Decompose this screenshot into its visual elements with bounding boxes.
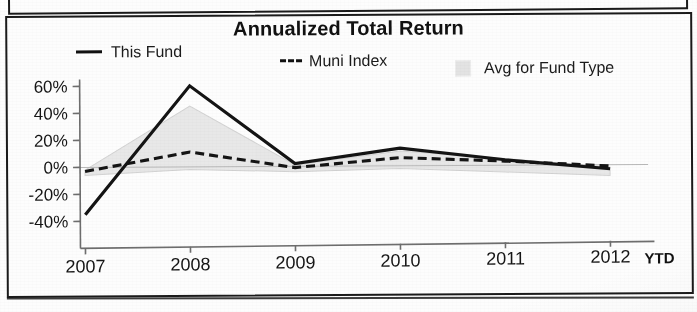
legend-item-muni-index: Muni Index <box>280 52 387 71</box>
x-axis-ytd-label: YTD <box>644 249 674 266</box>
y-axis-tick-label: 40% <box>34 104 68 123</box>
y-axis-tick-labels: 60%40%20%0%-20%-40% <box>28 77 68 231</box>
y-axis-tick-label: 0% <box>43 158 68 177</box>
x-axis-tick-label: 2007 <box>65 256 105 276</box>
legend-item-avg-for-fund-type: Avg for Fund Type <box>455 59 614 78</box>
x-axis-tick-label: 2011 <box>486 248 525 268</box>
x-axis-tick-labels: 200720082009201020112012YTD <box>65 246 674 276</box>
solid-line-swatch-icon <box>76 50 102 53</box>
y-axis-tick-label: 20% <box>34 131 68 150</box>
dashed-line-swatch-icon <box>280 59 302 62</box>
y-axis-line <box>80 79 81 248</box>
x-axis-tick-label: 2009 <box>275 252 315 272</box>
gray-box-swatch-icon <box>455 60 471 76</box>
chart-legend: This Fund Muni Index Avg for Fund Type <box>0 38 697 72</box>
x-axis-tick-label: 2012 <box>590 247 630 267</box>
legend-label-avg-for-fund-type: Avg for Fund Type <box>484 59 614 78</box>
legend-label-this-fund: This Fund <box>111 43 182 61</box>
legend-item-this-fund: This Fund <box>76 43 182 62</box>
y-axis-tick-label: -40% <box>29 212 69 231</box>
y-axis-tick-label: 60% <box>34 77 68 96</box>
x-axis-tick-label: 2008 <box>170 254 210 274</box>
x-axis-line <box>80 241 654 248</box>
x-axis-tick-label: 2010 <box>380 250 420 270</box>
y-axis-tick-label: -20% <box>28 185 68 204</box>
scanned-page: Annualized Total Return This Fund Muni I… <box>0 0 697 312</box>
legend-label-muni-index: Muni Index <box>309 52 387 70</box>
